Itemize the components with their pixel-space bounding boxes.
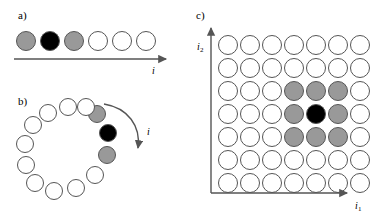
panel-c-node-r4-c3-neighbor [284, 127, 304, 147]
panel-c-node-r5-c4-empty [306, 150, 326, 170]
panel-b-node-11-empty [59, 98, 77, 116]
panel-c-node-r4-c6-empty [350, 127, 370, 147]
panel-c-label: c) [196, 10, 205, 21]
panel-c-node-r2-c1-empty [240, 81, 260, 101]
panel-c-node-r3-c2-empty [262, 104, 282, 124]
panel-c-node-r6-c6-empty [350, 173, 370, 193]
panel-c-node-r6-c3-empty [284, 173, 304, 193]
panel-a-node-0-neighbor [16, 31, 36, 51]
panel-c-node-r6-c5-empty [328, 173, 348, 193]
panel-a-axis-label: i [152, 66, 155, 76]
panel-c-node-r0-c1-empty [240, 35, 260, 55]
panel-b-node-3-empty [86, 166, 104, 184]
panel-a-label: a) [18, 10, 27, 21]
panel-c-node-r1-c6-empty [350, 58, 370, 78]
panel-c-node-r4-c2-empty [262, 127, 282, 147]
panel-c-node-r4-c4-neighbor [306, 127, 326, 147]
panel-c-node-r6-c4-empty [306, 173, 326, 193]
panel-c-node-r4-c1-empty [240, 127, 260, 147]
panel-a-node-3-empty [88, 31, 108, 51]
panel-c-node-r1-c0-empty [218, 58, 238, 78]
panel-c-node-r2-c0-empty [218, 81, 238, 101]
panel-c-node-r6-c2-empty [262, 173, 282, 193]
panel-c-node-r3-c4-center [306, 104, 326, 124]
panel-b-node-5-empty [45, 182, 63, 200]
panel-c-y-axis-label: i2 [197, 42, 203, 54]
panel-c-node-r5-c0-empty [218, 150, 238, 170]
panel-c-node-r0-c3-empty [284, 35, 304, 55]
panel-c-node-r2-c2-empty [262, 81, 282, 101]
panel-b-axis-label: i [147, 127, 150, 137]
panel-c-node-r4-c0-empty [218, 127, 238, 147]
panel-c-node-r5-c6-empty [350, 150, 370, 170]
panel-b-node-2-neighbor [98, 146, 116, 164]
panel-b-node-1-center [99, 124, 117, 142]
panel-c-node-r1-c2-empty [262, 58, 282, 78]
panel-c-node-r1-c5-empty [328, 58, 348, 78]
panel-c-node-r5-c2-empty [262, 150, 282, 170]
panel-b-node-8-empty [16, 135, 34, 153]
panel-b-node-4-empty [67, 179, 85, 197]
panel-c-node-r1-c1-empty [240, 58, 260, 78]
panel-c-node-r4-c5-neighbor [328, 127, 348, 147]
panel-c-node-r2-c3-neighbor [284, 81, 304, 101]
panel-c-node-r2-c5-neighbor [328, 81, 348, 101]
panel-b-node-7-empty [17, 156, 35, 174]
panel-b-node-12-empty [77, 98, 95, 116]
panel-a-node-1-center [40, 31, 60, 51]
panel-c-node-r3-c0-empty [218, 104, 238, 124]
panel-c-node-r0-c4-empty [306, 35, 326, 55]
panel-c-node-r0-c0-empty [218, 35, 238, 55]
panel-c-node-r0-c2-empty [262, 35, 282, 55]
panel-c-node-r2-c4-neighbor [306, 81, 326, 101]
figure-root: a) i b) i c) i1 i2 [0, 0, 390, 221]
panel-b-node-6-empty [26, 174, 44, 192]
panel-a-node-5-empty [136, 31, 156, 51]
panel-c-node-r1-c3-empty [284, 58, 304, 78]
panel-c-node-r3-c5-neighbor [328, 104, 348, 124]
panel-c-node-r3-c6-empty [350, 104, 370, 124]
panel-c-node-r3-c1-empty [240, 104, 260, 124]
panel-c-node-r5-c1-empty [240, 150, 260, 170]
panel-b-label: b) [18, 96, 27, 107]
panel-a-node-2-neighbor [64, 31, 84, 51]
panel-c-node-r3-c3-neighbor [284, 104, 304, 124]
panel-c-node-r2-c6-empty [350, 81, 370, 101]
panel-b-node-9-empty [24, 116, 42, 134]
panel-c-node-r5-c5-empty [328, 150, 348, 170]
panel-c-node-r0-c6-empty [350, 35, 370, 55]
panel-c-node-r6-c0-empty [218, 173, 238, 193]
panel-c-node-r0-c5-empty [328, 35, 348, 55]
panel-c-node-r1-c4-empty [306, 58, 326, 78]
panel-c-node-r5-c3-empty [284, 150, 304, 170]
panel-a-node-4-empty [112, 31, 132, 51]
panel-c-node-r6-c1-empty [240, 173, 260, 193]
panel-c-x-axis-label: i1 [355, 201, 361, 213]
panel-b-node-10-empty [39, 104, 57, 122]
